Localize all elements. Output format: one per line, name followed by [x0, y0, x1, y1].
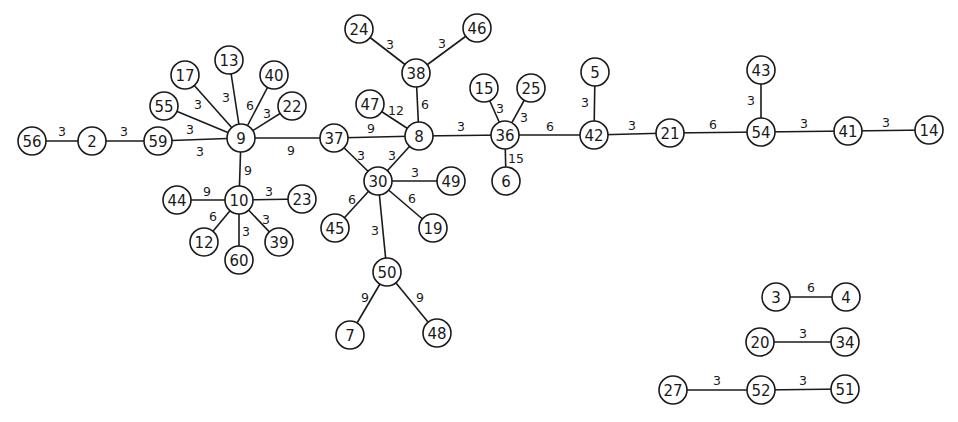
edge-weight-label: 3 [713, 373, 721, 388]
edge-weight-label: 9 [416, 290, 424, 305]
edge-weight-label: 3 [799, 326, 807, 341]
node-36: 36 [491, 121, 519, 149]
node-label: 10 [229, 192, 248, 210]
edge-weight-label: 3 [800, 116, 808, 131]
node-label: 59 [148, 133, 167, 151]
edge-weight-label: 6 [209, 209, 217, 224]
edge-weight-label: 3 [520, 110, 528, 125]
node-23: 23 [288, 185, 316, 213]
edge-weight-label: 6 [408, 191, 416, 206]
node-label: 56 [22, 133, 41, 151]
node-label: 25 [521, 80, 540, 98]
node-24: 24 [345, 15, 373, 43]
edge-weight-label: 3 [263, 106, 271, 121]
node-10: 10 [225, 186, 253, 214]
node-label: 6 [501, 173, 511, 191]
weighted-graph-diagram: 3333336399936339336123333663993315633633… [0, 0, 958, 422]
edge-weight-label: 3 [747, 93, 755, 108]
edge-weight-label: 6 [709, 117, 717, 132]
edge-weight-label: 3 [265, 184, 273, 199]
edge-weight-label: 3 [194, 97, 202, 112]
node-14: 14 [915, 116, 943, 144]
node-41: 41 [834, 117, 862, 145]
node-label: 37 [324, 130, 343, 148]
node-60: 60 [225, 246, 253, 274]
nodes-layer: 5625995517134022104423126039378382446473… [18, 14, 943, 404]
node-label: 23 [292, 191, 311, 209]
edge-weight-label: 3 [882, 115, 890, 130]
edge-weight-label: 3 [457, 119, 465, 134]
node-50: 50 [373, 258, 401, 286]
edge-weight-label: 9 [203, 184, 211, 199]
node-label: 12 [194, 234, 213, 252]
node-45: 45 [321, 214, 349, 242]
node-52: 52 [747, 376, 775, 404]
node-label: 27 [663, 382, 682, 400]
edge-weight-label: 3 [222, 90, 230, 105]
node-15: 15 [470, 74, 498, 102]
edge-weight-label: 3 [58, 124, 66, 139]
node-40: 40 [260, 61, 288, 89]
node-label: 50 [377, 264, 396, 282]
node-label: 5 [590, 64, 600, 82]
node-38: 38 [402, 59, 430, 87]
node-7: 7 [336, 321, 364, 349]
edge-weight-label: 9 [367, 121, 375, 136]
edge-weight-label: 3 [186, 122, 194, 137]
node-label: 2 [87, 133, 97, 151]
node-label: 30 [368, 173, 387, 191]
edge-weight-label: 3 [196, 144, 204, 159]
node-4: 4 [832, 283, 860, 311]
node-5: 5 [581, 58, 609, 86]
edge-weight-label: 6 [348, 192, 356, 207]
node-label: 20 [750, 334, 769, 352]
edge-weight-label: 6 [807, 280, 815, 295]
node-label: 17 [175, 67, 194, 85]
node-label: 45 [325, 220, 344, 238]
node-21: 21 [656, 119, 684, 147]
node-label: 39 [269, 234, 288, 252]
node-label: 7 [345, 327, 355, 345]
node-label: 13 [219, 52, 238, 70]
node-label: 51 [835, 381, 854, 399]
edge-weight-label: 3 [371, 223, 379, 238]
node-label: 19 [423, 220, 442, 238]
node-46: 46 [463, 14, 491, 42]
edge-weight-label: 9 [361, 290, 369, 305]
edge-weight-label: 12 [388, 103, 404, 118]
node-43: 43 [747, 56, 775, 84]
node-25: 25 [517, 74, 545, 102]
edge-weight-label: 3 [262, 212, 270, 227]
node-59: 59 [144, 127, 172, 155]
edge-weight-label: 3 [496, 101, 504, 116]
node-label: 14 [919, 122, 938, 140]
node-label: 43 [751, 62, 770, 80]
node-label: 9 [236, 130, 246, 148]
node-label: 41 [838, 123, 857, 141]
edge-weight-label: 3 [386, 37, 394, 52]
edge-weight-label: 6 [421, 97, 429, 112]
edge-weight-label: 3 [411, 165, 419, 180]
node-label: 47 [360, 96, 379, 114]
node-label: 55 [154, 98, 173, 116]
edge-weight-label: 3 [388, 148, 396, 163]
node-13: 13 [215, 46, 243, 74]
edge-weight-label: 6 [246, 98, 254, 113]
node-label: 15 [474, 80, 493, 98]
node-17: 17 [171, 61, 199, 89]
edge-weight-label: 3 [120, 124, 128, 139]
node-label: 4 [841, 289, 851, 307]
edge-weight-label: 3 [799, 373, 807, 388]
node-label: 21 [660, 125, 679, 143]
edge-weight-label: 6 [546, 119, 554, 134]
node-6: 6 [492, 167, 520, 195]
node-label: 22 [282, 98, 301, 116]
node-label: 42 [584, 127, 603, 145]
node-label: 3 [771, 289, 781, 307]
node-34: 34 [831, 328, 859, 356]
node-49: 49 [437, 167, 465, 195]
node-label: 36 [495, 127, 514, 145]
node-label: 60 [229, 252, 248, 270]
node-label: 8 [414, 128, 424, 146]
node-label: 54 [751, 124, 770, 142]
